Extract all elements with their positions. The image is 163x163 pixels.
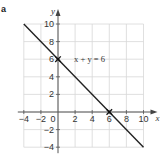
x-tick-label: 4 [90,114,95,124]
x-tick-label: 8 [124,114,129,124]
y-axis-label: y [50,6,55,16]
y-tick-label: −2 [44,125,54,135]
x-tick-label: −2 [36,114,46,124]
equation-label: x + y = 6 [74,54,105,64]
x-tick-label: 6 [107,114,112,124]
x-tick-label: 2 [73,114,78,124]
series-line [24,24,144,147]
y-tick-label: 6 [49,54,54,64]
annotations: x + y = 6 [74,54,105,64]
line-chart: −4−20246810−4−2246810xy x + y = 6 [0,0,163,163]
y-tick-label: 2 [49,89,54,99]
x-axis-label: x [155,113,160,123]
y-axis-arrow-icon [56,9,61,16]
x-tick-label: 10 [138,114,148,124]
axes [18,9,158,153]
x-tick-label: 0 [50,114,55,124]
y-tick-label: −4 [44,142,54,152]
y-tick-label: 8 [49,37,54,47]
tick-labels: −4−20246810−4−2246810xy [19,6,160,152]
x-tick-label: −4 [19,114,29,124]
y-tick-label: 10 [44,19,54,29]
data-series [24,24,144,147]
y-tick-label: 4 [49,72,54,82]
